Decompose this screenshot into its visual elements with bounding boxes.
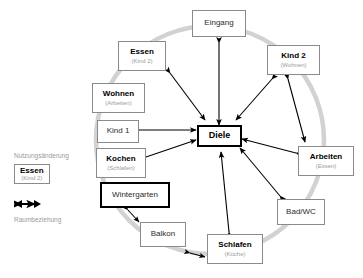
legend-relation-caption: Raumbeziehung <box>14 216 61 223</box>
edge-schlafen-diele <box>221 152 229 232</box>
edge-badwc-diele <box>240 148 280 196</box>
edge-kochen-diele <box>146 140 196 157</box>
node-sublabel: (Wohnen) <box>280 62 306 68</box>
edge-kind2-diele <box>236 79 272 120</box>
node-label: Kochen <box>106 155 135 163</box>
node-sublabel: (Arbeiten) <box>105 100 131 106</box>
node-label: Kind 1 <box>107 127 130 135</box>
node-label: Wohnen <box>103 90 134 98</box>
node-schlafen[interactable]: Schlafen (Küche) <box>207 234 263 264</box>
node-sublabel: (Kind 2) <box>131 58 152 64</box>
node-sublabel: (Essen) <box>316 163 337 169</box>
node-label: Wintergarten <box>112 191 158 199</box>
node-kochen[interactable]: Kochen (Schlafen) <box>96 148 146 178</box>
edge-essen-diele <box>170 73 205 120</box>
legend-usage-change-caption: Nutzungsänderung <box>14 152 69 159</box>
node-wohnen[interactable]: Wohnen (Arbeiten) <box>92 83 145 113</box>
legend-usage-change-example: Essen (Kind 2) <box>14 164 50 184</box>
node-label: Arbeiten <box>310 153 342 161</box>
node-diele-center[interactable]: Diele <box>197 125 242 147</box>
legend-relation: Raumbeziehung <box>14 198 61 223</box>
node-label: Essen <box>130 48 154 56</box>
node-arbeiten[interactable]: Arbeiten (Essen) <box>298 146 354 176</box>
edge-arbeiten-diele <box>242 139 296 153</box>
node-balkon[interactable]: Balkon <box>140 222 186 247</box>
node-sublabel: (Schlafen) <box>107 165 134 171</box>
node-label: Diele <box>209 131 231 140</box>
node-sublabel: (Küche) <box>224 251 245 257</box>
legend-example-sublabel: (Kind 2) <box>21 175 42 181</box>
node-eingang[interactable]: Eingang <box>192 10 246 37</box>
node-kind1[interactable]: Kind 1 <box>97 120 139 143</box>
node-label: Schlafen <box>218 241 251 249</box>
diagram-canvas: Eingang Kind 2 (Wohnen) Arbeiten (Essen)… <box>0 0 363 278</box>
legend-example-label: Essen <box>20 166 44 175</box>
node-label: Bad/WC <box>286 208 316 216</box>
node-label: Kind 2 <box>281 52 305 60</box>
node-badwc[interactable]: Bad/WC <box>277 199 325 225</box>
node-label: Eingang <box>204 19 233 27</box>
double-arrow-icon <box>14 198 42 210</box>
node-kind2[interactable]: Kind 2 (Wohnen) <box>267 45 320 75</box>
edge-kind2-arbeiten <box>288 79 305 142</box>
legend-usage-change: Nutzungsänderung Essen (Kind 2) <box>14 152 69 184</box>
node-wintergarten[interactable]: Wintergarten <box>100 182 170 208</box>
node-label: Balkon <box>151 230 175 238</box>
node-essen[interactable]: Essen (Kind 2) <box>118 41 166 71</box>
